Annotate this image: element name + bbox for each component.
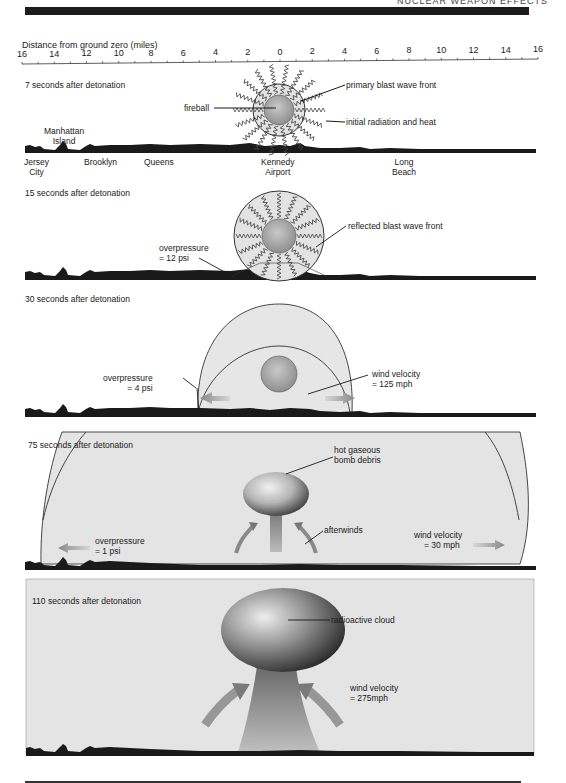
- label-afterwinds: afterwinds: [324, 525, 363, 535]
- label-primary-blast-wave: primary blast wave front: [346, 80, 436, 90]
- label-overpressure-1psi: overpressure= 1 psi: [95, 536, 145, 556]
- fireball: [264, 95, 294, 125]
- panel-title-75s: 75 seconds after detonation: [28, 440, 133, 450]
- label-long-beach: LongBeach: [392, 157, 416, 177]
- label-fireball: fireball: [184, 103, 209, 113]
- label-wind-125mph: wind velocity= 125 mph: [372, 369, 420, 389]
- label-queens: Queens: [144, 157, 174, 167]
- panel-7s: [25, 64, 536, 155]
- label-wind-275mph: wind velocity= 275mph: [350, 683, 398, 703]
- label-jersey-city: JerseyCity: [24, 157, 49, 177]
- label-hot-gaseous-debris: hot gaseousbomb debris: [334, 445, 381, 465]
- panel-title-7s: 7 seconds after detonation: [25, 80, 125, 90]
- panel-15s: [25, 191, 536, 281]
- label-overpressure-4psi: overpressure= 4 psi: [103, 373, 153, 393]
- panel-title-110s: 110 seconds after detonation: [32, 596, 141, 606]
- skyline: [25, 141, 536, 153]
- label-kennedy-airport: KennedyAirport: [261, 157, 295, 177]
- panel-30s: [25, 304, 536, 417]
- diagram-canvas: [0, 0, 566, 783]
- label-initial-radiation: initial radiation and heat: [346, 117, 436, 127]
- label-brooklyn: Brooklyn: [84, 157, 117, 167]
- label-wind-30mph: wind velocity= 30 mph: [414, 530, 462, 550]
- panel-title-15s: 15 seconds after detonation: [25, 188, 130, 198]
- label-radioactive-cloud: radioactive cloud: [331, 615, 395, 625]
- label-reflected-blast-wave: reflected blast wave front: [348, 221, 443, 231]
- distance-axis: [22, 57, 538, 64]
- label-overpressure-12psi: overpressure= 12 psi: [159, 243, 209, 263]
- panel-title-30s: 30 seconds after detonation: [25, 294, 130, 304]
- label-manhattan: ManhattanIsland: [44, 126, 84, 146]
